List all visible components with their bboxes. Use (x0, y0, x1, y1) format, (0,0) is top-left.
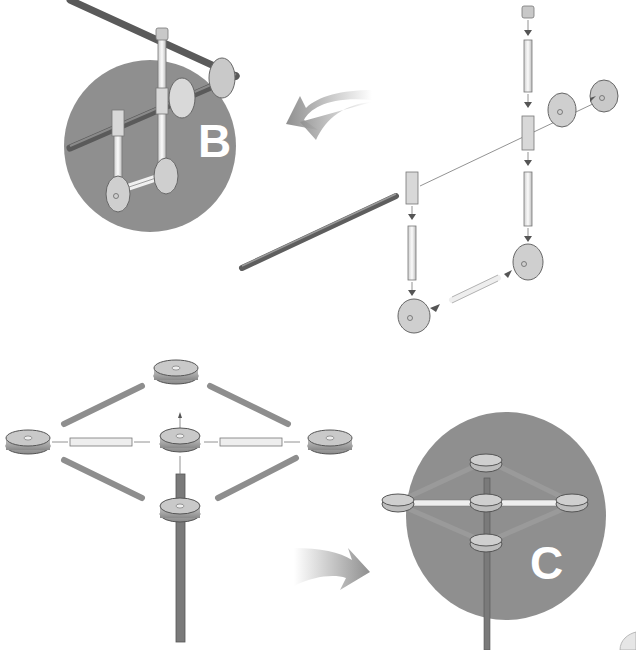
assembly-diagram: B C (0, 0, 636, 650)
hub-disc-center (160, 428, 200, 452)
arrow-to-step-c-icon (294, 548, 370, 590)
hub-disc-bottom (160, 498, 200, 522)
step-c-label: C (530, 540, 563, 586)
hub-disc-top (154, 360, 198, 384)
hub-disc-right (308, 430, 352, 454)
arrow-to-step-b-icon (286, 90, 372, 140)
hub-disc-left (6, 430, 50, 454)
step-c-exploded-parts (6, 360, 352, 642)
page-corner-fragment (620, 632, 636, 650)
step-b-exploded-parts (242, 6, 618, 333)
step-b-label: B (198, 118, 231, 164)
step-c-result-circle (382, 412, 606, 650)
